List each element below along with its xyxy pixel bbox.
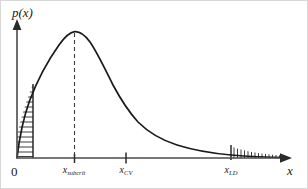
x-axis-arrowhead	[280, 153, 292, 163]
density-curve	[17, 32, 287, 158]
tick-label-ld: xLD	[225, 165, 238, 175]
y-axis-arrowhead	[13, 19, 22, 30]
origin-label: 0	[11, 165, 18, 178]
plot-canvas	[1, 1, 308, 189]
x-axis-label: x	[287, 164, 293, 177]
tick-label-cv-subscript: CV	[124, 169, 132, 176]
tick-label-ld-subscript: LD	[229, 169, 237, 176]
tick-label-subcrit-subscript: subcrit	[67, 169, 85, 176]
probability-density-figure: p(x) 0 x xsubcrit xCV xLD	[0, 0, 308, 189]
tick-label-cv: xCV	[120, 165, 133, 175]
y-axis-label: p(x)	[12, 6, 33, 19]
tick-label-subcrit: xsubcrit	[63, 165, 86, 175]
